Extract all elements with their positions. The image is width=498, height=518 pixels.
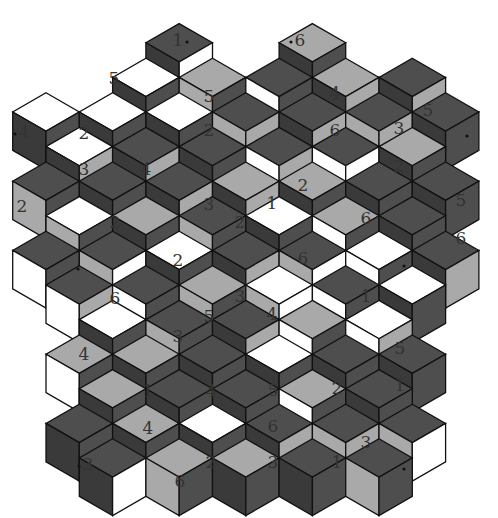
clue-number: 2: [110, 212, 121, 232]
clue-number: 1: [395, 375, 406, 395]
clue-number: 6: [456, 228, 467, 248]
clue-number: 5: [423, 100, 434, 120]
clue-number: 3: [361, 432, 372, 452]
clue-number: 5: [109, 68, 120, 88]
edge-dot: [76, 267, 79, 270]
clue-number: 2: [79, 123, 90, 143]
clue-number: 4: [141, 159, 152, 179]
clue-number: 3: [235, 286, 246, 306]
clue-number: 3: [173, 326, 184, 346]
clue-number: 4: [19, 122, 30, 142]
clue-number: 3: [268, 452, 279, 472]
clue-number: 2: [235, 212, 246, 232]
clue-number: 6: [110, 288, 121, 308]
clue-number: 1: [143, 381, 154, 401]
clue-dot: [289, 40, 292, 43]
clue-number: 1: [267, 193, 278, 213]
clue-number: 4: [330, 83, 341, 103]
clue-number: 2: [332, 378, 343, 398]
clue-number: 3: [83, 454, 94, 474]
clue-number: 4: [267, 304, 278, 324]
clue-number: 6: [295, 30, 306, 50]
clue-number: 4: [206, 381, 217, 401]
clue-number: 6: [298, 248, 309, 268]
clue-number: 6: [268, 416, 279, 436]
clue-number: 2: [17, 196, 28, 216]
clue-number: 3: [204, 194, 215, 214]
rhombus-tiling: [13, 24, 479, 516]
clue-dot: [77, 464, 80, 467]
clue-number: 5: [268, 380, 279, 400]
edge-dot: [402, 264, 405, 267]
clue-number: 2: [206, 452, 217, 472]
clue-number: 2: [204, 120, 215, 140]
clue-number: 4: [143, 418, 154, 438]
clue-number: 2: [394, 156, 405, 176]
clue-dot: [185, 40, 188, 43]
clue-number: 5: [204, 86, 215, 106]
clue-number: 3: [394, 118, 405, 138]
edge-dot: [465, 134, 468, 137]
clue-number: 5: [456, 190, 467, 210]
clue-number: 1: [173, 30, 184, 50]
clue-number: 6: [175, 471, 186, 491]
clue-number: 2: [173, 250, 184, 270]
clue-number: 2: [298, 175, 309, 195]
clue-number: 1: [332, 452, 343, 472]
edge-dot: [402, 467, 405, 470]
clue-number: 6: [361, 208, 372, 228]
clue-number: 5: [204, 306, 215, 326]
clue-number: 4: [79, 344, 90, 364]
clue-number: 5: [395, 338, 406, 358]
clue-number: 3: [79, 159, 90, 179]
clue-number: 1: [361, 286, 372, 306]
clue-dot: [13, 132, 16, 135]
clue-number: 6: [330, 120, 341, 140]
puzzle-board[interactable]: 1655454226334223125226626631543541452146…: [0, 0, 498, 518]
